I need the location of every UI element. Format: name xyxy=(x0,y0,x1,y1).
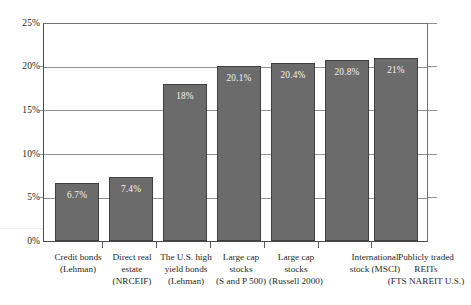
bar-chart-figure: 25% 20% 15% 10% 5% 0% 6.7% 7.4% 18% 20.1… xyxy=(0,0,471,305)
x-axis-tick-mark xyxy=(264,242,265,248)
label-line: Publicly traded xyxy=(381,251,471,263)
y-axis-tick-label: 5% xyxy=(6,192,40,202)
x-axis-tick-mark xyxy=(371,242,372,248)
label-line: REITs xyxy=(381,263,471,275)
right-axis-tick-mark xyxy=(428,197,437,198)
bar-credit-bonds: 6.7% xyxy=(55,183,99,241)
bar-value-label: 6.7% xyxy=(56,190,98,200)
x-axis-tick-mark xyxy=(156,242,157,248)
bar-value-label: 7.4% xyxy=(110,184,152,194)
x-axis-category-label-large-cap-russell2000: Large cap stocks (Russell 2000) xyxy=(253,251,339,288)
bar-international-stock-msci: 20.8% xyxy=(325,60,369,241)
right-axis-tick-mark xyxy=(428,110,437,111)
right-axis-tick-mark xyxy=(428,23,437,24)
bar-large-cap-russell2000: 20.4% xyxy=(271,63,315,241)
right-axis-tick-mark xyxy=(428,66,437,67)
plot-area: 6.7% 7.4% 18% 20.1% 20.4% 20.8% 21% xyxy=(43,23,428,242)
label-line: Large cap xyxy=(253,251,339,263)
bar-value-label: 18% xyxy=(164,91,206,101)
bar-large-cap-sp500: 20.1% xyxy=(217,66,261,241)
y-axis: 25% 20% 15% 10% 5% 0% xyxy=(3,0,40,305)
y-axis-tick-label: 15% xyxy=(6,105,40,115)
y-axis-tick-label: 25% xyxy=(6,18,40,28)
x-axis-tick-mark xyxy=(318,242,319,248)
label-line: (Russell 2000) xyxy=(253,275,339,287)
x-axis-tick-mark xyxy=(210,242,211,248)
bar-value-label: 20.4% xyxy=(272,70,314,80)
x-axis-tick-mark xyxy=(102,242,103,248)
label-line: (FTS NAREIT U.S.) xyxy=(381,275,471,287)
bar-us-high-yield-bonds: 18% xyxy=(163,84,207,241)
y-axis-tick-label: 10% xyxy=(6,149,40,159)
bar-value-label: 20.8% xyxy=(326,67,368,77)
bar-publicly-traded-reits: 21% xyxy=(374,58,418,241)
y-axis-tick-label: 0% xyxy=(6,236,40,246)
right-axis-tick-mark xyxy=(428,154,437,155)
bar-value-label: 20.1% xyxy=(218,73,260,83)
bar-direct-real-estate: 7.4% xyxy=(109,177,153,242)
label-line: stocks xyxy=(253,263,339,275)
bar-value-label: 21% xyxy=(375,65,417,75)
y-axis-tick-label: 20% xyxy=(6,61,40,71)
x-axis-category-label-publicly-traded-reits: Publicly traded REITs (FTS NAREIT U.S.) xyxy=(381,251,471,288)
